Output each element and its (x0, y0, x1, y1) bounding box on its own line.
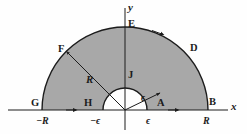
tick-epsilon-label: ϵ (146, 116, 150, 126)
point-D-label: D (190, 43, 198, 54)
y-axis-label: y (128, 2, 133, 13)
point-F-label: F (58, 44, 64, 55)
outer-radius-label: R (86, 74, 93, 85)
tick-R-label: R (203, 116, 210, 126)
x-axis-label: x (231, 101, 237, 112)
contour-diagram: y x G H A B D E F J R ϵ −R −ϵ ϵ R (0, 0, 247, 134)
point-J-label: J (128, 70, 133, 81)
point-A-label: A (157, 98, 165, 109)
point-H-label: H (84, 98, 92, 109)
point-G-label: G (31, 98, 39, 109)
point-B-label: B (209, 97, 216, 108)
tick-minus-R-label: −R (36, 116, 49, 126)
tick-minus-epsilon-label: −ϵ (90, 116, 100, 126)
point-E-label: E (128, 19, 135, 30)
inner-radius-label: ϵ (141, 94, 145, 104)
contour-figure-svg (0, 0, 247, 134)
